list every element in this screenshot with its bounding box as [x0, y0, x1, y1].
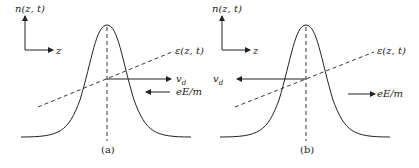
axis-x-label: z	[252, 45, 259, 56]
axis-y-label: n(z, t)	[212, 3, 242, 14]
force-label: eE/m	[176, 86, 202, 97]
force-label: eE/m	[377, 88, 403, 99]
panel-a: n(z, t) z ε(z, t) vd eE/m (a)	[15, 3, 204, 155]
axes-icon	[222, 16, 250, 50]
diagram-canvas: n(z, t) z ε(z, t) vd eE/m (a) n(z, t) z …	[0, 0, 419, 168]
axis-x-label: z	[55, 45, 62, 56]
density-gaussian-curve	[21, 25, 191, 137]
potential-label: ε(z, t)	[175, 45, 204, 56]
density-gaussian-curve	[220, 25, 390, 137]
potential-label: ε(z, t)	[377, 45, 406, 56]
drift-velocity-label: vd	[176, 73, 187, 87]
panel-caption: (b)	[300, 144, 314, 155]
panel-b: n(z, t) z ε(z, t) vd eE/m (b)	[212, 3, 406, 155]
panel-caption: (a)	[101, 144, 115, 155]
drift-velocity-label: vd	[213, 73, 224, 87]
axes-icon	[25, 16, 53, 50]
axis-y-label: n(z, t)	[15, 3, 45, 14]
